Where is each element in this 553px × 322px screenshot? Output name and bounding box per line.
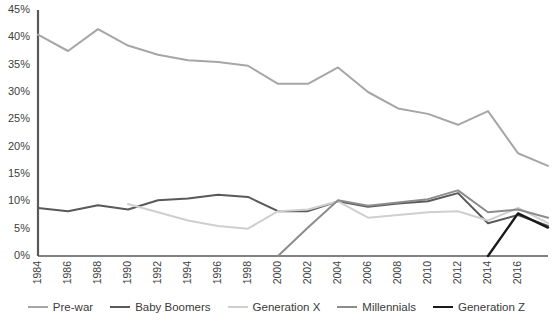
- y-tick-label: 20%: [0, 141, 30, 152]
- chart-legend: Pre-warBaby BoomersGeneration XMillennia…: [0, 296, 553, 318]
- legend-label: Generation X: [253, 301, 321, 313]
- x-tick-label: 1988: [92, 261, 102, 284]
- series-line: [38, 29, 548, 166]
- legend-item[interactable]: Millennials: [337, 301, 416, 313]
- x-tick-label: 2008: [392, 261, 402, 284]
- legend-item[interactable]: Generation Z: [433, 301, 525, 313]
- y-tick-label: 10%: [0, 195, 30, 206]
- x-tick-label: 1990: [122, 261, 132, 284]
- legend-swatch-icon: [433, 306, 453, 308]
- legend-swatch-icon: [337, 306, 357, 308]
- legend-label: Generation Z: [458, 301, 525, 313]
- axis-lines: [38, 10, 548, 256]
- y-tick-label: 40%: [0, 31, 30, 42]
- x-tick-label: 2000: [272, 261, 282, 284]
- series-layer: [38, 29, 548, 256]
- legend-item[interactable]: Generation X: [228, 301, 321, 313]
- y-tick-label: 15%: [0, 168, 30, 179]
- legend-item[interactable]: Pre-war: [28, 301, 93, 313]
- series-line: [278, 190, 548, 256]
- y-tick-label: 45%: [0, 4, 30, 15]
- x-tick-label: 1998: [242, 261, 252, 284]
- x-tick-label: 1984: [32, 261, 42, 284]
- x-tick-label: 2002: [302, 261, 312, 284]
- x-tick-label: 2006: [362, 261, 372, 284]
- series-line: [128, 201, 548, 228]
- y-tick-label: 35%: [0, 59, 30, 70]
- legend-swatch-icon: [110, 306, 130, 308]
- x-tick-label: 2012: [452, 261, 462, 284]
- legend-swatch-icon: [28, 306, 48, 308]
- y-tick-label: 5%: [0, 223, 30, 234]
- legend-label: Pre-war: [53, 301, 93, 313]
- x-tick-label: 2010: [422, 261, 432, 284]
- y-tick-label: 25%: [0, 113, 30, 124]
- legend-swatch-icon: [228, 306, 248, 308]
- line-chart: 0%5%10%15%20%25%30%35%40%45% 19841986198…: [0, 0, 553, 322]
- y-tick-label: 30%: [0, 86, 30, 97]
- x-tick-label: 1994: [182, 261, 192, 284]
- x-tick-label: 2014: [482, 261, 492, 284]
- y-tick-label: 0%: [0, 250, 30, 261]
- x-tick-label: 1996: [212, 261, 222, 284]
- legend-label: Baby Boomers: [135, 301, 210, 313]
- legend-item[interactable]: Baby Boomers: [110, 301, 210, 313]
- x-tick-label: 2016: [512, 261, 522, 284]
- x-tick-label: 1992: [152, 261, 162, 284]
- legend-label: Millennials: [362, 301, 416, 313]
- x-tick-label: 2004: [332, 261, 342, 284]
- x-tick-label: 1986: [62, 261, 72, 284]
